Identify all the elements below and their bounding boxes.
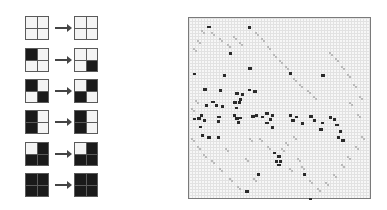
particle: [245, 190, 249, 193]
rule-row: [25, 48, 100, 73]
trace-mark: [199, 42, 201, 44]
particle: [265, 122, 269, 124]
particle: [321, 74, 325, 77]
trace-mark: [359, 116, 361, 118]
trace-mark: [229, 46, 231, 48]
empty-cell: [26, 29, 37, 40]
filled-cell: [26, 123, 37, 134]
empty-cell: [38, 49, 49, 60]
trace-mark: [193, 140, 195, 142]
empty-cell: [75, 61, 86, 72]
trace-mark: [247, 160, 249, 162]
trace-mark: [287, 144, 289, 146]
particle: [257, 173, 260, 176]
right-arrow-icon: [55, 59, 69, 61]
trace-mark: [263, 40, 265, 42]
particle: [261, 116, 264, 118]
rule-row: [25, 142, 100, 167]
input-block: [25, 142, 49, 166]
particle: [271, 114, 274, 117]
empty-cell: [75, 17, 86, 28]
particle: [255, 114, 258, 117]
trace-mark: [275, 56, 277, 58]
trace-mark: [361, 98, 363, 100]
filled-cell: [75, 155, 86, 166]
particle: [233, 101, 237, 104]
particle: [221, 105, 224, 108]
particle: [279, 160, 282, 163]
rule-row: [25, 173, 100, 198]
simulation-grid: [188, 17, 371, 199]
trace-mark: [309, 92, 311, 94]
trace-mark: [269, 48, 271, 50]
output-block: [74, 48, 98, 72]
empty-cell: [38, 80, 49, 91]
particle: [193, 118, 196, 120]
filled-cell: [26, 186, 37, 197]
particle: [215, 104, 218, 107]
trace-mark: [283, 150, 285, 152]
particle: [217, 116, 221, 118]
trace-mark: [319, 190, 321, 192]
particle: [211, 101, 215, 103]
empty-cell: [26, 17, 37, 28]
trace-mark: [269, 148, 271, 150]
trace-mark: [213, 162, 215, 164]
empty-cell: [75, 80, 86, 91]
input-block: [25, 16, 49, 40]
trace-mark: [295, 80, 297, 82]
particle: [248, 89, 251, 91]
particle: [333, 118, 336, 121]
trace-mark: [343, 68, 345, 70]
particle: [271, 126, 274, 129]
particle: [201, 134, 204, 137]
empty-cell: [87, 123, 98, 134]
filled-cell: [38, 143, 49, 154]
trace-mark: [193, 110, 195, 112]
empty-cell: [75, 29, 86, 40]
particle: [273, 152, 276, 154]
output-block: [74, 110, 98, 134]
trace-mark: [343, 166, 345, 168]
particle: [207, 26, 211, 28]
particle: [239, 117, 242, 119]
trace-mark: [251, 140, 253, 142]
input-block: [25, 110, 49, 134]
trace-mark: [235, 38, 237, 40]
trace-mark: [291, 170, 293, 172]
filled-cell: [26, 111, 37, 122]
particle: [219, 89, 222, 92]
particle: [309, 198, 312, 200]
trace-mark: [203, 32, 205, 34]
particle: [321, 122, 324, 124]
trace-mark: [227, 150, 229, 152]
particle: [277, 155, 281, 158]
trace-mark: [205, 156, 207, 158]
particle: [197, 117, 201, 120]
trace-mark: [261, 140, 263, 142]
filled-cell: [26, 155, 37, 166]
input-block: [25, 173, 49, 197]
particle: [207, 136, 211, 139]
trace-mark: [303, 168, 305, 170]
filled-cell: [38, 155, 49, 166]
filled-cell: [87, 174, 98, 185]
empty-cell: [87, 49, 98, 60]
rule-row: [25, 79, 100, 104]
particle: [269, 118, 272, 121]
output-block: [74, 142, 98, 166]
particle: [235, 92, 239, 95]
particle: [291, 119, 295, 122]
particle: [339, 130, 342, 133]
particle: [199, 126, 202, 128]
trace-mark: [239, 188, 241, 190]
empty-cell: [38, 111, 49, 122]
particle: [229, 52, 232, 55]
filled-cell: [87, 61, 98, 72]
trace-mark: [299, 160, 301, 162]
trace-mark: [281, 62, 283, 64]
particle: [301, 122, 304, 125]
trace-mark: [331, 54, 333, 56]
empty-cell: [38, 17, 49, 28]
particle: [200, 114, 203, 117]
